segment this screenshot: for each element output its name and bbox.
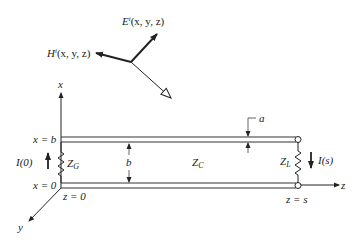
propagation-vector	[131, 62, 171, 98]
separation-dimension: b	[126, 144, 132, 182]
x-eq-0-label: x = 0	[32, 179, 57, 191]
load-impedance: ZL	[280, 142, 301, 183]
z-eq-s-label: z = s	[285, 193, 307, 205]
zc-label: ZC	[192, 156, 204, 170]
e-field-label: Ei(x, y, z)	[121, 15, 165, 28]
radius-dimension: a	[248, 112, 265, 153]
bottom-conductor-end	[295, 183, 301, 189]
separation-label: b	[126, 156, 132, 168]
zg-label: ZG	[67, 157, 79, 171]
incident-field-vectors: Ei(x, y, z) Hi(x, y, z)	[46, 15, 171, 98]
radius-leader-line	[248, 118, 256, 123]
y-axis	[29, 188, 61, 221]
transmission-line-diagram: Ei(x, y, z) Hi(x, y, z) x y z ZG ZL I(0)…	[0, 0, 364, 243]
z-eq-0-label: z = 0	[62, 190, 86, 202]
h-field-vector	[96, 53, 131, 62]
conductors	[61, 137, 301, 189]
y-axis-label: y	[17, 221, 23, 233]
radius-label: a	[259, 112, 265, 124]
x-eq-b-label: x = b	[32, 133, 57, 145]
load-current-label: I(s)	[317, 154, 334, 167]
z-axis-label: z	[340, 179, 346, 191]
source-current-label: I(0)	[15, 156, 33, 169]
h-field-label: Hi(x, y, z)	[46, 47, 91, 60]
x-axis-label: x	[57, 78, 63, 90]
e-field-vector	[131, 34, 157, 62]
load-resistor-icon	[295, 142, 301, 183]
top-conductor-end	[295, 137, 301, 143]
zl-label: ZL	[280, 155, 291, 169]
